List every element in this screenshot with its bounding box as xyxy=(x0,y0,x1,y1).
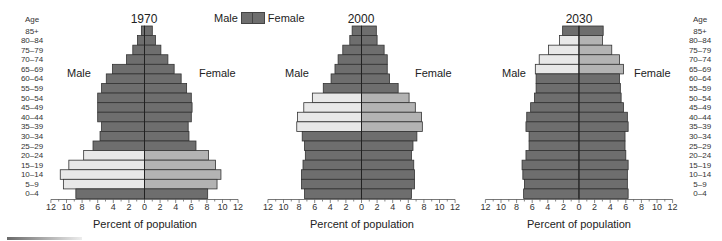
legend: Male Female xyxy=(214,12,305,24)
bar-male-60–64 xyxy=(331,74,361,84)
bar-male-35–39 xyxy=(102,122,145,132)
x-tick-label: 10 xyxy=(276,202,292,212)
bar-female-80–84 xyxy=(362,36,378,46)
x-tick-label: 2 xyxy=(369,202,385,212)
x-tick-label: 8 xyxy=(74,202,90,212)
pyramid-2030 xyxy=(485,26,672,203)
age-group-label: 55–59 xyxy=(15,84,49,93)
bar-female-30–34 xyxy=(145,131,189,141)
bar-male-50–54 xyxy=(535,93,579,103)
bar-female-15–19 xyxy=(579,160,628,170)
bar-female-50–54 xyxy=(579,93,621,103)
bar-male-30–34 xyxy=(302,131,361,141)
bar-female-20–24 xyxy=(145,151,209,161)
bar-female-35–39 xyxy=(145,122,189,132)
bar-female-65–69 xyxy=(145,64,175,74)
bar-male-80–84 xyxy=(350,36,362,46)
bar-male-30–34 xyxy=(529,131,579,141)
chart-title-2000: 2000 xyxy=(331,12,391,26)
bar-male-40–44 xyxy=(298,112,362,122)
bar-female-5–9 xyxy=(362,179,415,189)
bar-male-45–49 xyxy=(304,103,362,113)
age-group-label: 75–79 xyxy=(15,46,49,55)
bar-male-85+ xyxy=(352,26,361,36)
x-tick-label: 0 xyxy=(571,202,587,212)
x-tick-label: 4 xyxy=(322,202,338,212)
bar-male-45–49 xyxy=(98,103,145,113)
bar-male-35–39 xyxy=(526,122,579,132)
bar-female-25–29 xyxy=(579,141,625,151)
bar-male-10–14 xyxy=(523,170,579,180)
bar-female-70–74 xyxy=(579,55,620,65)
bar-male-65–69 xyxy=(113,64,145,74)
x-tick-label: 0 xyxy=(354,202,370,212)
bar-male-15–19 xyxy=(69,160,145,170)
bar-female-45–49 xyxy=(579,103,623,113)
pyramid-2000 xyxy=(268,26,455,203)
age-group-label: 15–19 xyxy=(15,161,49,170)
x-axis-label-2000: Percent of population xyxy=(269,218,455,230)
bar-female-70–74 xyxy=(145,55,168,65)
x-tick-label: 10 xyxy=(493,202,509,212)
bar-female-70–74 xyxy=(362,55,388,65)
age-group-label: 30–34 xyxy=(683,132,717,141)
bar-female-60–64 xyxy=(145,74,182,84)
bar-female-10–14 xyxy=(362,170,415,180)
age-group-label: 60–64 xyxy=(15,74,49,83)
age-group-label: 35–39 xyxy=(683,122,717,131)
chart-title-1970: 1970 xyxy=(114,12,174,26)
bar-male-50–54 xyxy=(98,93,145,103)
x-tick-label: 12 xyxy=(477,202,493,212)
age-group-label: 25–29 xyxy=(683,142,717,151)
bar-male-15–19 xyxy=(303,160,362,170)
bar-female-80–84 xyxy=(145,36,156,46)
male-label-2030: Male xyxy=(502,67,526,79)
x-tick-label: 6 xyxy=(183,202,199,212)
x-tick-label: 6 xyxy=(307,202,323,212)
bar-female-55–59 xyxy=(362,84,399,94)
age-group-label: 70–74 xyxy=(683,55,717,64)
bar-male-10–14 xyxy=(301,170,361,180)
bar-female-5–9 xyxy=(579,179,627,189)
x-tick-label: 6 xyxy=(618,202,634,212)
chart-title-2030: 2030 xyxy=(549,12,609,26)
bar-female-20–24 xyxy=(579,151,626,161)
age-group-label: 15–19 xyxy=(683,161,717,170)
age-group-label: 85+ xyxy=(15,27,49,36)
bar-male-75–79 xyxy=(549,45,579,55)
bar-male-80–84 xyxy=(560,36,580,46)
bar-female-15–19 xyxy=(145,160,216,170)
bar-female-30–34 xyxy=(362,131,417,141)
age-header-right: Age xyxy=(683,15,717,24)
x-tick-label: 0 xyxy=(137,202,153,212)
bar-female-0–4 xyxy=(579,189,628,199)
x-tick-label: 6 xyxy=(90,202,106,212)
bar-female-25–29 xyxy=(362,141,413,151)
x-tick-label: 4 xyxy=(168,202,184,212)
age-group-label: 65–69 xyxy=(15,65,49,74)
bar-male-25–29 xyxy=(93,141,144,151)
bar-male-0–4 xyxy=(76,189,145,199)
bar-female-45–49 xyxy=(145,103,193,113)
age-group-label: 5–9 xyxy=(683,180,717,189)
bar-male-65–69 xyxy=(535,64,579,74)
bar-male-25–29 xyxy=(305,141,362,151)
x-tick-label: 4 xyxy=(385,202,401,212)
bar-male-20–24 xyxy=(526,151,579,161)
bar-male-30–34 xyxy=(100,131,144,141)
female-label-2000: Female xyxy=(415,67,452,79)
x-tick-label: 2 xyxy=(338,202,354,212)
bar-female-30–34 xyxy=(579,131,625,141)
age-group-label: 0–4 xyxy=(683,189,717,198)
age-group-label: 50–54 xyxy=(683,94,717,103)
bar-female-65–69 xyxy=(579,64,623,74)
bar-male-0–4 xyxy=(524,189,579,199)
bar-female-20–24 xyxy=(362,151,412,161)
bar-female-85+ xyxy=(145,26,153,36)
bar-female-75–79 xyxy=(362,45,385,55)
age-group-label: 40–44 xyxy=(15,113,49,122)
age-group-label: 45–49 xyxy=(683,103,717,112)
bar-male-0–4 xyxy=(305,189,362,199)
bar-male-55–59 xyxy=(102,84,145,94)
bar-male-60–64 xyxy=(536,74,579,84)
